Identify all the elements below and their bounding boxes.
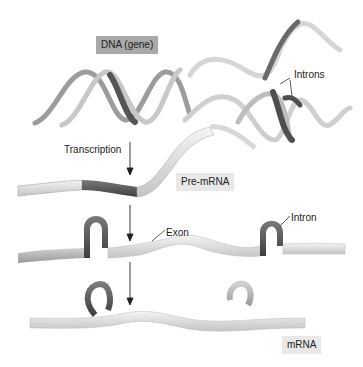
- excised-introns: [88, 284, 251, 315]
- dna-helix: [35, 22, 350, 140]
- pre-mrna-label: Pre-mRNA: [176, 173, 234, 191]
- mrna-strand: [30, 311, 305, 331]
- transcription-label: Transcription: [64, 145, 121, 155]
- mrna-label: mRNA: [282, 336, 321, 354]
- dna-gene-label: DNA (gene): [96, 36, 158, 54]
- exon-label: Exon: [166, 228, 189, 238]
- process-arrows: [127, 142, 133, 305]
- intron-label: Intron: [291, 213, 317, 223]
- introns-label: Introns: [294, 70, 325, 80]
